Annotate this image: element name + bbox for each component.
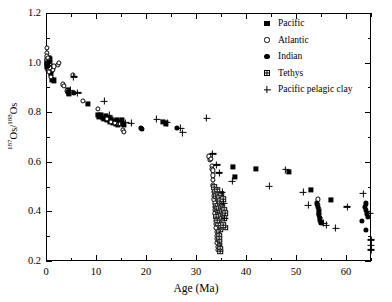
y-num-superscript: 187: [6, 139, 14, 150]
x-tick-minor-top: [71, 13, 72, 17]
y-den-text: Os: [7, 103, 18, 115]
x-tick-minor-top: [121, 13, 122, 17]
legend-label: Pacific pelagic clay: [276, 84, 352, 95]
y-den-superscript: 188: [6, 114, 14, 125]
y-tick-major: [46, 112, 52, 113]
legend-label: Indian: [276, 51, 302, 62]
y-axis-title-text: 187Os/188Os: [7, 103, 18, 150]
x-tick-major-top: [146, 13, 147, 19]
y-tick-minor-right: [368, 236, 372, 237]
legend-marker-open-circle-icon: [258, 35, 276, 46]
legend-item-pacific: Pacific: [258, 18, 370, 29]
legend-marker-filled-circle-icon: [258, 51, 276, 62]
x-tick-minor: [371, 258, 372, 262]
legend-label: Pacific: [276, 18, 304, 29]
legend-item-atlantic: Atlantic: [258, 35, 370, 46]
legend: PacificAtlanticIndianTethysPacific pelag…: [258, 18, 370, 101]
y-tick-major: [46, 261, 52, 262]
x-tick-minor: [121, 258, 122, 262]
x-tick-minor-top: [321, 13, 322, 17]
legend-item-indian: Indian: [258, 51, 370, 62]
y-axis-title: 187Os/188Os: [6, 66, 19, 186]
x-tick-minor-top: [171, 13, 172, 17]
legend-item-tethys: Tethys: [258, 68, 370, 79]
x-tick-label: 50: [291, 267, 302, 278]
y-tick-major: [46, 211, 52, 212]
x-tick-minor: [321, 258, 322, 262]
x-tick-major: [246, 255, 247, 261]
x-tick-label: 10: [91, 267, 102, 278]
x-tick-minor: [71, 258, 72, 262]
x-tick-label: 20: [141, 267, 152, 278]
x-tick-label: 60: [341, 267, 352, 278]
x-tick-minor: [171, 258, 172, 262]
figure-scatter-plot: 01020304050600.20.40.60.81.01.2 Age (Ma)…: [0, 0, 392, 302]
y-tick-minor-right: [368, 187, 372, 188]
x-tick-minor-top: [271, 13, 272, 17]
x-tick-major-top: [196, 13, 197, 19]
x-tick-major-top: [96, 13, 97, 19]
x-tick-minor: [221, 258, 222, 262]
x-tick-label: 30: [191, 267, 202, 278]
legend-label: Tethys: [276, 68, 303, 79]
y-tick-major-right: [365, 13, 371, 14]
x-tick-major: [296, 255, 297, 261]
y-tick-minor: [46, 137, 50, 138]
x-tick-label: 0: [43, 267, 48, 278]
x-tick-minor: [271, 258, 272, 262]
x-tick-major: [96, 255, 97, 261]
y-tick-minor: [46, 38, 50, 39]
legend-marker-grid-square-icon: [258, 68, 276, 79]
y-tick-major-right: [365, 112, 371, 113]
y-tick-label: 0.4: [13, 206, 41, 217]
legend-item-pacific-pelagic-clay: Pacific pelagic clay: [258, 84, 370, 95]
legend-label: Atlantic: [276, 35, 309, 46]
x-tick-major-top: [246, 13, 247, 19]
y-tick-major: [46, 13, 52, 14]
legend-marker-plus-icon: [258, 84, 276, 95]
y-tick-major-right: [365, 162, 371, 163]
legend-marker-filled-square-icon: [258, 18, 276, 29]
y-tick-label: 1.2: [13, 8, 41, 19]
y-tick-minor: [46, 87, 50, 88]
y-tick-minor-right: [368, 137, 372, 138]
y-num-text: Os/: [7, 125, 18, 140]
x-tick-major: [346, 255, 347, 261]
x-tick-major: [146, 255, 147, 261]
y-tick-minor: [46, 187, 50, 188]
x-tick-label: 40: [241, 267, 252, 278]
x-tick-major: [196, 255, 197, 261]
y-tick-major: [46, 162, 52, 163]
y-tick-major: [46, 63, 52, 64]
y-tick-minor: [46, 236, 50, 237]
x-axis-title: Age (Ma): [0, 282, 392, 294]
y-tick-major-right: [365, 211, 371, 212]
x-tick-minor-top: [371, 13, 372, 17]
y-tick-label: 0.2: [13, 256, 41, 267]
y-tick-major-right: [365, 261, 371, 262]
x-tick-minor-top: [221, 13, 222, 17]
